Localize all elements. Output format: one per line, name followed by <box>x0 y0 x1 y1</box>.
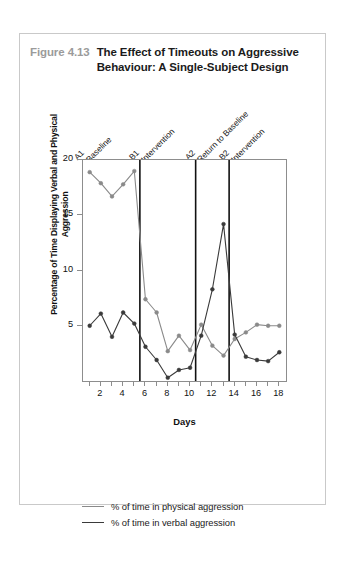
chart-area: Percentage of Time Displaying Verbal and… <box>20 96 327 466</box>
x-tick-label: 10 <box>180 388 198 398</box>
data-point <box>210 287 214 291</box>
x-tick-label: 12 <box>202 388 220 398</box>
y-tick-label: 20 <box>51 153 73 163</box>
data-point <box>155 358 159 362</box>
x-tick-label: 6 <box>135 388 153 398</box>
data-point <box>188 348 192 352</box>
data-point <box>166 376 170 380</box>
data-point <box>244 355 248 359</box>
data-point <box>255 323 259 327</box>
legend-item: % of time in verbal aggression <box>82 514 317 530</box>
x-axis-title: Days <box>82 416 287 427</box>
data-point <box>99 312 103 316</box>
data-point <box>144 345 148 349</box>
data-point <box>199 323 203 327</box>
legend-label: % of time in physical aggression <box>111 501 243 512</box>
data-point <box>110 335 114 339</box>
data-point <box>233 333 237 337</box>
data-point <box>88 324 92 328</box>
x-tick-label: 16 <box>247 388 265 398</box>
y-tick-label: 15 <box>51 208 73 218</box>
data-point <box>277 324 281 328</box>
x-tick-label: 4 <box>113 388 131 398</box>
data-point <box>255 358 259 362</box>
x-tick-label: 8 <box>158 388 176 398</box>
figure-number: Figure 4.13 <box>30 45 97 60</box>
data-point <box>144 297 148 301</box>
plot-svg <box>83 160 286 381</box>
data-point <box>277 350 281 354</box>
x-tick-label: 14 <box>225 388 243 398</box>
data-point <box>166 349 170 353</box>
data-point <box>110 195 114 199</box>
data-point <box>132 322 136 326</box>
series-line-verbal <box>90 224 280 378</box>
data-point <box>121 182 125 186</box>
x-tick-label: 18 <box>269 388 287 398</box>
data-point <box>88 170 92 174</box>
legend-line-swatch <box>82 506 104 507</box>
data-point <box>155 311 159 315</box>
x-tick-label: 2 <box>91 388 109 398</box>
figure-title: The Effect of Timeouts on Aggressive Beh… <box>97 45 317 74</box>
figure-header: Figure 4.13 The Effect of Timeouts on Ag… <box>20 34 327 74</box>
legend-item: % of time in physical aggression <box>82 498 317 514</box>
data-point <box>199 334 203 338</box>
data-point <box>132 169 136 173</box>
legend-label: % of time in verbal aggression <box>111 517 235 528</box>
data-point <box>177 334 181 338</box>
data-point <box>244 330 248 334</box>
data-point <box>188 366 192 370</box>
data-point <box>222 354 226 358</box>
data-point <box>210 344 214 348</box>
data-point <box>266 324 270 328</box>
chart-legend: % of time in physical aggression% of tim… <box>82 498 317 530</box>
data-point <box>266 359 270 363</box>
data-point <box>99 181 103 185</box>
data-point <box>222 222 226 226</box>
data-point <box>177 368 181 372</box>
legend-line-swatch <box>82 522 104 523</box>
y-tick-label: 10 <box>51 264 73 274</box>
data-point <box>121 311 125 315</box>
figure-card: Figure 4.13 The Effect of Timeouts on Ag… <box>19 33 326 505</box>
plot-frame <box>82 159 287 382</box>
y-tick-label: 5 <box>51 319 73 329</box>
series-line-physical <box>90 171 280 356</box>
